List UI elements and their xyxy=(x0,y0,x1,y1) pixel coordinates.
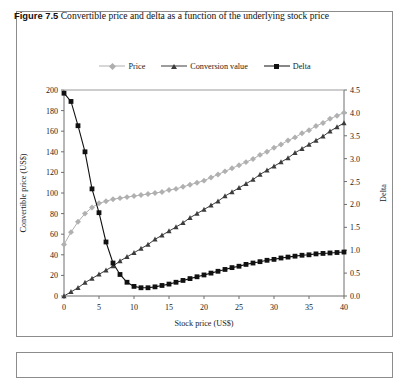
diamond-marker-icon xyxy=(103,198,109,204)
x-tick-label: 40 xyxy=(340,303,348,312)
square-marker-icon xyxy=(286,255,291,260)
square-marker-icon xyxy=(69,99,74,104)
y-tick-label-left: 200 xyxy=(46,86,58,95)
triangle-marker-icon xyxy=(145,242,150,247)
diamond-marker-icon xyxy=(180,184,186,190)
diamond-marker-icon xyxy=(159,189,165,195)
x-tick-label: 25 xyxy=(235,303,243,312)
triangle-marker-icon xyxy=(75,285,80,290)
square-marker-icon xyxy=(237,264,242,269)
triangle-marker-icon xyxy=(215,198,220,203)
x-tick-label: 15 xyxy=(165,303,173,312)
diamond-marker-icon xyxy=(285,138,291,144)
y-tick-label-left: 0 xyxy=(54,292,58,301)
y-tick-label-right: 1.0 xyxy=(350,246,360,255)
y-tick-label-left: 80 xyxy=(50,210,58,219)
x-tick-label: 35 xyxy=(305,303,313,312)
diamond-marker-icon xyxy=(124,194,130,200)
square-marker-icon xyxy=(328,251,333,256)
y-tick-label-right: 0.5 xyxy=(350,269,360,278)
triangle-marker-icon xyxy=(138,246,143,251)
y-tick-label-right: 4.5 xyxy=(350,86,360,95)
diamond-marker-icon xyxy=(61,242,67,248)
square-marker-icon xyxy=(342,250,347,255)
square-marker-icon xyxy=(111,261,116,266)
diamond-marker-icon xyxy=(145,191,151,197)
y-axis-title-right: Delta xyxy=(379,184,388,202)
triangle-marker-icon xyxy=(292,150,297,155)
square-marker-icon xyxy=(97,210,102,215)
y-tick-label-right: 2.0 xyxy=(350,200,360,209)
triangle-marker-icon xyxy=(201,207,206,212)
y-tick-label-right: 1.5 xyxy=(350,223,360,232)
square-marker-icon xyxy=(209,271,214,276)
square-marker-icon xyxy=(300,253,305,258)
diamond-marker-icon xyxy=(257,152,263,158)
diamond-marker-icon xyxy=(208,175,214,181)
diamond-marker-icon xyxy=(201,178,207,184)
triangle-marker-icon xyxy=(208,203,213,208)
square-marker-icon xyxy=(118,272,123,277)
diamond-marker-icon xyxy=(236,162,242,168)
triangle-marker-icon xyxy=(159,232,164,237)
square-marker-icon xyxy=(174,280,179,285)
square-marker-icon xyxy=(230,265,235,270)
y-axis-title-left: Convertible price (US$) xyxy=(19,153,28,232)
diamond-marker-icon xyxy=(222,168,228,174)
diamond-marker-icon xyxy=(264,149,270,155)
triangle-marker-icon xyxy=(124,254,129,259)
square-marker-icon xyxy=(181,278,186,283)
triangle-marker-icon xyxy=(194,211,199,216)
diamond-marker-icon xyxy=(131,193,137,199)
square-marker-icon xyxy=(104,240,109,245)
triangle-marker-icon xyxy=(103,267,108,272)
triangle-marker-icon xyxy=(264,168,269,173)
y-tick-label-left: 120 xyxy=(46,168,58,177)
triangle-marker-icon xyxy=(131,250,136,255)
x-tick-label: 10 xyxy=(130,303,138,312)
y-tick-label-right: 2.5 xyxy=(350,178,360,187)
diamond-marker-icon xyxy=(215,171,221,177)
series-line-delta xyxy=(64,93,344,288)
y-tick-label-left: 180 xyxy=(46,107,58,116)
triangle-marker-icon xyxy=(222,193,227,198)
x-tick-label: 20 xyxy=(200,303,208,312)
triangle-marker-icon xyxy=(68,289,73,294)
triangle-marker-icon xyxy=(285,155,290,160)
y-tick-label-right: 4.0 xyxy=(350,109,360,118)
triangle-marker-icon xyxy=(187,215,192,220)
diamond-marker-icon xyxy=(152,190,158,196)
diamond-marker-icon xyxy=(250,156,256,162)
triangle-marker-icon xyxy=(236,185,241,190)
triangle-marker-icon xyxy=(171,64,177,69)
diamond-marker-icon xyxy=(187,182,193,188)
y-tick-label-left: 40 xyxy=(50,251,58,260)
y-tick-label-left: 100 xyxy=(46,189,58,198)
square-marker-icon xyxy=(223,267,228,272)
y-tick-label-left: 60 xyxy=(50,230,58,239)
square-marker-icon xyxy=(279,256,284,261)
y-tick-label-left: 160 xyxy=(46,127,58,136)
square-marker-icon xyxy=(335,250,340,255)
triangle-marker-icon xyxy=(320,134,325,139)
triangle-marker-icon xyxy=(327,128,332,133)
diamond-marker-icon xyxy=(117,195,123,201)
triangle-marker-icon xyxy=(96,272,101,277)
square-marker-icon xyxy=(139,285,144,290)
triangle-marker-icon xyxy=(152,237,157,242)
diamond-marker-icon xyxy=(138,192,144,198)
square-marker-icon xyxy=(272,257,277,262)
square-marker-icon xyxy=(167,282,172,287)
square-marker-icon xyxy=(244,262,249,267)
diamond-marker-icon xyxy=(243,159,249,165)
square-marker-icon xyxy=(188,276,193,281)
triangle-marker-icon xyxy=(299,146,304,151)
diamond-marker-icon xyxy=(292,134,298,140)
diamond-marker-icon xyxy=(334,113,340,119)
diamond-marker-icon xyxy=(110,196,116,202)
diamond-marker-icon xyxy=(341,110,347,116)
diamond-marker-icon xyxy=(166,187,172,193)
triangle-marker-icon xyxy=(341,120,346,125)
